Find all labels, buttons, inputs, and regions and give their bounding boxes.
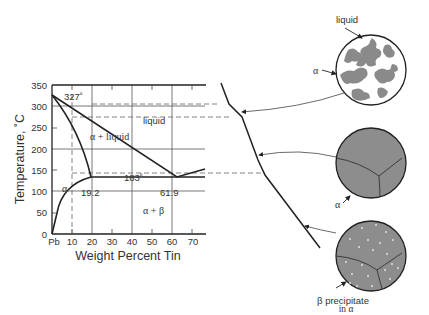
x-axis-tick-labels: Pb 10 20 30 40 50 60 70 (48, 236, 198, 247)
x-tick: Pb (48, 236, 60, 247)
microstructure-alpha-grains: α (335, 128, 406, 210)
eutectic-temp-label: 183˚ (124, 172, 143, 183)
y-tick: 350 (31, 80, 47, 91)
dashed-guides (72, 94, 265, 234)
y-tick: 200 (31, 144, 47, 155)
axis-ticks (52, 85, 192, 234)
eutectic-composition-label: 61.9 (160, 187, 179, 198)
microstructure-beta-precipitate: β precipitate (317, 221, 406, 306)
plot-axes (52, 85, 206, 234)
alpha-label-2: α (335, 199, 341, 210)
pb-melting-label: 327˚ (64, 91, 83, 102)
x-tick: 20 (87, 236, 98, 247)
region-liquid-label: liquid (143, 115, 165, 126)
y-tick: 300 (31, 101, 47, 112)
y-tick: 100 (31, 186, 47, 197)
x-tick: 30 (107, 236, 118, 247)
in-alpha-label: in α (331, 305, 361, 315)
x-tick: 40 (127, 236, 138, 247)
x-tick: 50 (147, 236, 158, 247)
alpha-solubility-label: 19.2 (81, 187, 100, 198)
y-axis-title: Temperature, ˚C (13, 114, 27, 204)
region-alpha-liquid-label: α + liquid (90, 131, 129, 142)
region-alpha-label: α (62, 183, 68, 194)
y-axis-tick-labels: 0 50 100 150 200 250 300 350 (31, 80, 47, 240)
microstructure-liquid-alpha: liquid α (313, 14, 406, 105)
alpha-label-1: α (313, 65, 319, 76)
liquid-label: liquid (336, 14, 358, 25)
y-tick: 50 (36, 207, 47, 218)
phase-boundaries (52, 95, 205, 234)
x-axis-title: Weight Percent Tin (75, 249, 180, 263)
cooling-curve (221, 83, 320, 248)
x-tick: 10 (67, 236, 78, 247)
y-tick: 150 (31, 165, 47, 176)
phase-annotations: 327˚ 183˚ 19.2 61.9 liquid α + liquid α … (62, 91, 179, 216)
x-tick: 70 (188, 236, 199, 247)
y-tick: 250 (31, 122, 47, 133)
x-tick: 60 (167, 236, 178, 247)
region-alpha-beta-label: α + β (143, 205, 164, 216)
plot-grid (52, 85, 205, 234)
solvus-line (52, 177, 91, 234)
y-tick: 0 (42, 229, 47, 240)
